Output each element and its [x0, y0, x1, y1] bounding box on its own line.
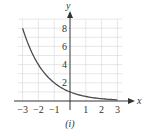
x-tick-label: −3: [17, 104, 28, 115]
chart-caption: (i): [65, 118, 75, 130]
x-tick-label: 1: [83, 104, 88, 115]
axes: [14, 11, 135, 110]
exponential-decay-chart: x y −3−2−1123 2468 (i): [0, 0, 145, 140]
x-axis-arrow-icon: [128, 98, 135, 104]
x-tick-label: 2: [99, 104, 104, 115]
x-tick-label: 3: [115, 104, 120, 115]
x-tick-labels: −3−2−1123: [17, 104, 120, 115]
y-tick-label: 2: [62, 77, 67, 88]
y-tick-label: 8: [62, 23, 67, 34]
x-axis-label: x: [136, 95, 142, 106]
x-tick-label: −2: [33, 104, 44, 115]
y-axis-label: y: [65, 0, 71, 11]
x-tick-label: −1: [49, 104, 60, 115]
y-tick-label: 4: [62, 59, 67, 70]
y-tick-label: 6: [62, 41, 67, 52]
y-axis-arrow-icon: [67, 11, 73, 18]
